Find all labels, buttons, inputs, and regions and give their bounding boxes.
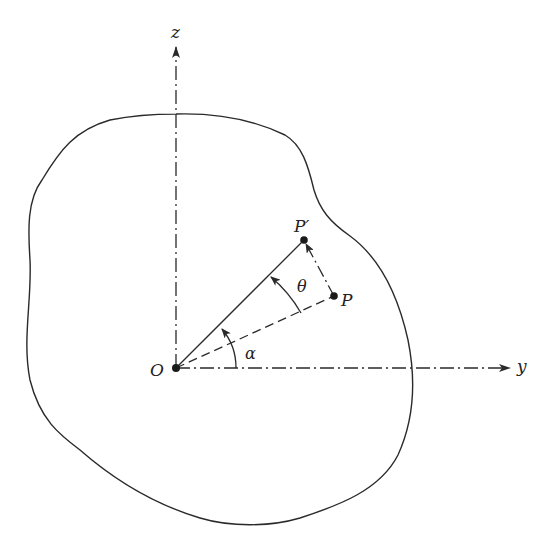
rotation-diagram: z y O P P′ α θ bbox=[0, 0, 546, 543]
point-p-label: P bbox=[340, 290, 353, 310]
segment-op-prime bbox=[176, 240, 304, 368]
origin-point bbox=[172, 364, 180, 372]
alpha-arc bbox=[222, 329, 236, 368]
alpha-label: α bbox=[245, 344, 256, 363]
point-p-prime bbox=[300, 236, 308, 244]
point-p bbox=[330, 292, 338, 300]
theta-label: θ bbox=[297, 277, 307, 296]
origin-label: O bbox=[150, 360, 164, 380]
segment-p-to-p-prime bbox=[306, 244, 334, 296]
z-axis-label: z bbox=[170, 22, 181, 42]
body-outline bbox=[27, 114, 413, 525]
point-p-prime-label: P′ bbox=[293, 216, 309, 236]
y-axis-label: y bbox=[516, 356, 527, 376]
